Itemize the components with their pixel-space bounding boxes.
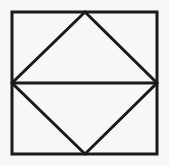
geometric-figure-canvas bbox=[0, 0, 169, 165]
figure-container: Square with inscribed rhombus and horizo… bbox=[0, 0, 169, 165]
